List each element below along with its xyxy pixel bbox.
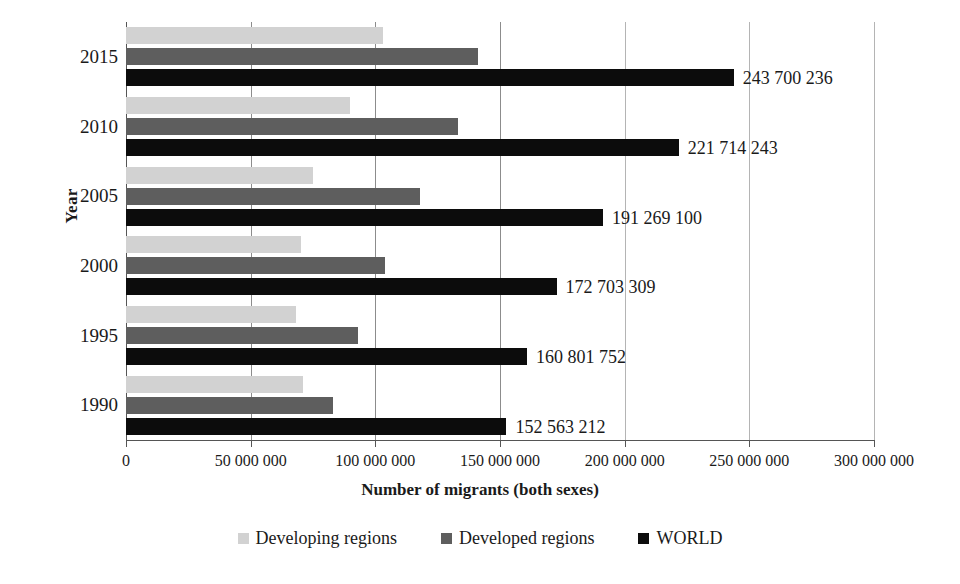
legend-swatch-icon <box>238 533 249 544</box>
legend-item-developed-regions[interactable]: Developed regions <box>441 528 594 549</box>
bar-value-label-2010: 221 714 243 <box>688 140 778 157</box>
gridline <box>874 22 875 440</box>
axis-tick <box>500 440 501 447</box>
bar-developing-regions-2000 <box>126 236 301 253</box>
migration-bar-chart: Year 201520102005200019951990 243 700 23… <box>0 0 960 584</box>
legend-item-world[interactable]: WORLD <box>638 528 722 549</box>
axis-tick <box>126 440 127 447</box>
y-tick-label-2000: 2000 <box>44 256 118 275</box>
bar-developed-regions-2005 <box>126 188 420 205</box>
legend-label: WORLD <box>656 528 722 549</box>
bar-developing-regions-2010 <box>126 97 350 114</box>
bar-developed-regions-1995 <box>126 327 358 344</box>
bar-developing-regions-2015 <box>126 27 383 44</box>
bar-world-2015 <box>126 69 734 86</box>
bar-developed-regions-2000 <box>126 257 385 274</box>
bar-value-label-2005: 191 269 100 <box>612 210 702 227</box>
axis-tick <box>874 440 875 447</box>
bar-world-1990 <box>126 418 506 435</box>
y-tick-label-1995: 1995 <box>44 326 118 345</box>
bar-developing-regions-2005 <box>126 167 313 184</box>
x-tick-label: 250 000 000 <box>709 452 789 470</box>
x-tick-label: 50 000 000 <box>215 452 287 470</box>
axis-tick <box>251 440 252 447</box>
bar-world-2005 <box>126 209 603 226</box>
plot-area: 243 700 236221 714 243191 269 100172 703… <box>126 22 874 440</box>
y-tick-label-2015: 2015 <box>44 47 118 66</box>
axis-tick <box>375 440 376 447</box>
chart-legend: Developing regionsDeveloped regionsWORLD <box>0 528 960 549</box>
axis-tick <box>625 440 626 447</box>
axis-tick <box>749 440 750 447</box>
y-axis-title: Year <box>62 146 82 266</box>
y-tick-label-2005: 2005 <box>44 186 118 205</box>
bar-developing-regions-1995 <box>126 306 296 323</box>
y-tick-label-1990: 1990 <box>44 395 118 414</box>
bar-developed-regions-1990 <box>126 397 333 414</box>
legend-label: Developed regions <box>459 528 594 549</box>
legend-label: Developing regions <box>256 528 397 549</box>
bar-world-2010 <box>126 139 679 156</box>
x-tick-label: 200 000 000 <box>585 452 665 470</box>
x-tick-label: 0 <box>122 452 130 470</box>
legend-item-developing-regions[interactable]: Developing regions <box>238 528 397 549</box>
legend-swatch-icon <box>638 533 649 544</box>
bar-developed-regions-2015 <box>126 48 478 65</box>
x-tick-label: 150 000 000 <box>460 452 540 470</box>
x-axis-title: Number of migrants (both sexes) <box>0 480 960 500</box>
bar-value-label-1990: 152 563 212 <box>515 419 605 436</box>
bar-developing-regions-1990 <box>126 376 303 393</box>
bar-world-2000 <box>126 278 557 295</box>
legend-swatch-icon <box>441 533 452 544</box>
x-tick-label: 300 000 000 <box>834 452 914 470</box>
x-tick-label: 100 000 000 <box>335 452 415 470</box>
bar-value-label-2000: 172 703 309 <box>566 279 656 296</box>
bar-world-1995 <box>126 348 527 365</box>
bar-value-label-1995: 160 801 752 <box>536 349 626 366</box>
bar-developed-regions-2010 <box>126 118 458 135</box>
y-tick-label-2010: 2010 <box>44 117 118 136</box>
bar-value-label-2015: 243 700 236 <box>743 70 833 87</box>
